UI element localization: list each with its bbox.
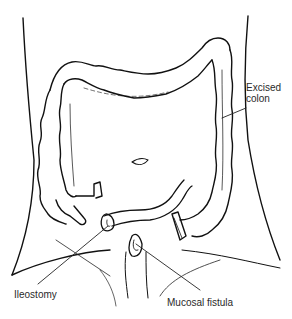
leader-lines bbox=[38, 108, 246, 306]
diagram-canvas: Excised colon Ileostomy Mucosal fistula bbox=[0, 0, 292, 319]
ileostomy-stoma bbox=[101, 214, 114, 231]
navel-icon bbox=[132, 159, 148, 165]
excised-colon-label-line2: colon bbox=[246, 93, 281, 104]
colon-descending bbox=[172, 50, 233, 240]
excised-colon-label: Excised colon bbox=[246, 82, 281, 104]
ileum-loop bbox=[101, 180, 192, 231]
excised-colon-leader bbox=[222, 108, 246, 118]
colon-illustration bbox=[0, 0, 292, 319]
ileostomy-label: Ileostomy bbox=[14, 289, 57, 300]
torso-outline bbox=[12, 16, 280, 275]
excised-colon-label-line1: Excised bbox=[246, 82, 281, 93]
ileostomy-leader bbox=[38, 226, 108, 284]
mucosal-fistula-label: Mucosal fistula bbox=[167, 297, 233, 308]
colon-ascending-transverse bbox=[38, 38, 230, 225]
